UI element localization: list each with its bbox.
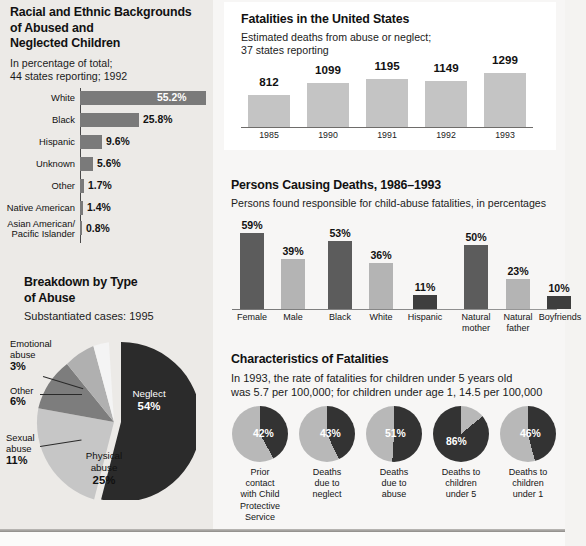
fatalities-subtitle-line1: Estimated deaths from abuse or neglect; [241,31,431,44]
racial-bar-label: Other [52,176,75,196]
fatalities-bar-value: 1299 [475,53,535,66]
racial-bar-row: Other 1.7% [0,176,213,196]
fatalities-bar-category: 1993 [475,130,535,140]
mini-pie-value: 42% [253,428,274,439]
racial-bar-value: 0.8% [86,218,110,240]
persons-bar [506,279,530,309]
fatalities-bar-category: 1990 [298,130,358,140]
racial-bar [80,113,139,127]
mini-pie-caption-line: due to [295,478,359,489]
racial-bar-value: 9.6% [106,132,130,152]
pie-label-physical-line1: Physical [74,450,134,462]
mini-pie-caption-line: neglect [295,489,359,500]
pie-value-other: 6% [10,395,26,407]
persons-bar [240,233,264,309]
mini-pie-caption-line: Deaths to [496,467,560,478]
fatalities-subtitle-line2: 37 states reporting [241,44,329,57]
persons-bar [464,245,488,309]
racial-bar-row: Black 25.8% [0,110,213,130]
racial-bar [80,135,102,149]
racial-bar [80,221,82,235]
mini-pie-caption: Deaths due to abuse [362,467,426,501]
racial-chart-title-line2: of Abused and [10,21,210,37]
persons-bar-value: 50% [453,231,499,243]
racial-bar-row: White 55.2% [0,88,213,108]
fatalities-bar-category: 1991 [357,130,417,140]
fatalities-bar-value: 1099 [298,63,358,76]
persons-bar-value: 59% [229,219,275,231]
pie-label-emotional-line1: Emotional [10,338,90,349]
fatalities-bar [366,79,408,127]
mini-pie-caption: Deaths due to neglect [295,467,359,501]
characteristics-title: Characteristics of Fatalities [231,352,388,368]
persons-baseline [232,309,557,310]
racial-bar-row: Asian American/ Pacific Islander 0.8% [0,218,213,242]
fatalities-bar-value: 1149 [416,61,476,74]
mini-pie-caption-line: with Child [228,489,292,500]
mini-pie-caption-line: Service [228,512,292,523]
racial-bar [80,91,206,105]
persons-bar-category: Boyfriends [531,312,586,323]
bottom-strip [0,532,565,546]
pie-label-neglect: Neglect [114,388,184,400]
racial-bar-label-multiline: Asian American/ Pacific Islander [7,219,75,239]
breakdown-title-line2: of Abuse [24,291,75,307]
characteristics-subtitle-line1: In 1993, the rate of fatalities for chil… [231,372,512,385]
pie-label-physical-line2: abuse [74,462,134,474]
persons-bar [413,295,437,309]
mini-pie-caption-line: contact [228,478,292,489]
fatalities-bar-category: 1992 [416,130,476,140]
characteristics-of-fatalities-chart: Characteristics of Fatalities In 1993, t… [224,352,564,532]
racial-bar-value: 1.4% [87,198,111,218]
persons-bar-value: 39% [270,245,316,257]
mini-pie-caption: Deaths to children under 1 [496,467,560,501]
pie-value-emotional: 3% [10,360,26,372]
pie-value-neglect: 54% [114,400,184,412]
persons-bar [328,241,352,309]
racial-bar [80,157,93,171]
persons-bar-category: Hispanic [399,312,451,323]
fatalities-title: Fatalities in the United States [241,12,409,28]
mini-pie-caption: Deaths to children under 5 [429,467,493,501]
mini-pie-caption-line: under 1 [496,489,560,500]
mini-pie-caption-line: Deaths [362,467,426,478]
leader-line-other [40,394,82,395]
mini-pie-value: 86% [446,436,467,447]
persons-bar-value: 10% [536,282,582,294]
racial-bar [80,179,84,193]
racial-bar-value: 55.2% [157,88,186,108]
racial-bar-label: Black [52,110,75,130]
mini-pie-caption-line: Deaths to [429,467,493,478]
fatalities-bar-value: 812 [239,75,299,88]
pie-callout-sexual: Sexual abuse 11% [6,432,76,466]
racial-bar-label: Hispanic [39,132,75,152]
racial-chart-title-line1: Racial and Ethnic Backgrounds [10,5,210,21]
fatalities-bar [425,81,467,127]
racial-bar [80,201,83,215]
mini-pie-caption: Prior contact with Child Protective Serv… [228,467,292,523]
persons-bar-category-2: father [492,323,544,334]
breakdown-title-line1: Breakdown by Type [24,275,138,291]
racial-bar-value: 1.7% [88,176,112,196]
persons-causing-deaths-chart: Persons Causing Deaths, 1986–1993 Person… [224,178,564,333]
persons-bar-category: Male [267,312,319,323]
fatalities-bar-value: 1195 [357,59,417,72]
racial-chart-subtitle-line2: 44 states reporting; 1992 [10,70,210,83]
mini-pie-caption-line: abuse [362,489,426,500]
persons-bar-value: 11% [402,281,448,293]
pie-value-sexual: 11% [6,454,27,466]
persons-bar [281,259,305,309]
persons-bar-value: 53% [317,227,363,239]
breakdown-subtitle: Substantiated cases: 1995 [24,310,154,323]
racial-bar-label: White [51,88,75,108]
mini-pie-caption-line: Protective [228,501,292,512]
racial-bar-row: Hispanic 9.6% [0,132,213,152]
breakdown-by-type-chart: Breakdown by Type of Abuse Substantiated… [0,272,213,530]
fatalities-chart: Fatalities in the United States Estimate… [224,2,556,150]
pie-callout-emotional: Emotional abuse 3% [10,338,90,372]
persons-bar [369,263,393,309]
mini-pie-caption-line: children [429,478,493,489]
racial-chart-title-line3: Neglected Children [10,36,210,52]
fatalities-bar [248,95,290,127]
racial-bar-value: 5.6% [97,154,121,174]
